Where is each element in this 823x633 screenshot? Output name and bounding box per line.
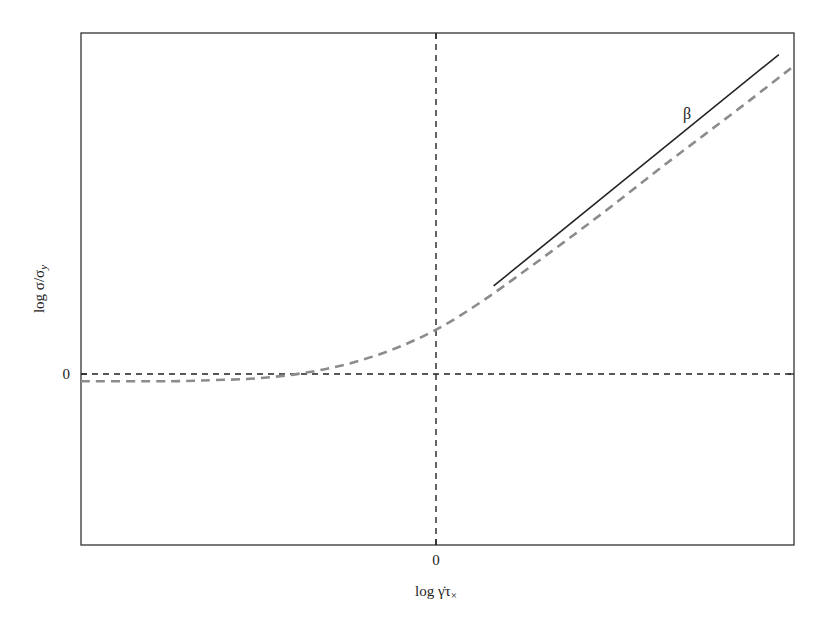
y-tick-label-0: 0 <box>63 366 71 382</box>
y-axis-label-main: log σ/σ <box>31 270 47 313</box>
chart: β 0 0 log γ̇τ× log σ/σy <box>0 0 823 633</box>
x-axis-label-subscript: × <box>451 589 457 601</box>
x-axis-label: log γ̇τ× <box>415 583 457 601</box>
x-tick-label-0: 0 <box>432 552 440 568</box>
y-axis-label: log σ/σy <box>31 265 49 313</box>
x-axis-label-main: log <box>415 583 438 599</box>
slope-line <box>494 55 779 286</box>
y-axis-label-subscript: y <box>37 265 49 271</box>
beta-annotation: β <box>683 105 691 123</box>
